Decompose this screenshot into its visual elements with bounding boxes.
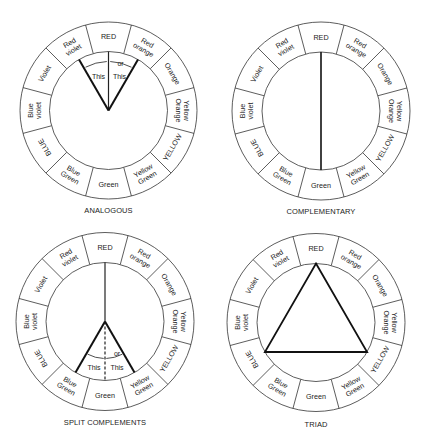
segment-label-violet: Violet (36, 64, 53, 84)
segment-label-yellow-orange: YellowOrange (387, 99, 404, 123)
segment-divider (23, 126, 51, 134)
segment-label-yellow-orange: YellowOrange (382, 311, 399, 335)
annotation-this-left: This (87, 364, 101, 371)
annotation-this-right: This (113, 73, 127, 80)
segment-divider (230, 338, 259, 346)
wheel-caption: ANALOGOUS (84, 206, 132, 215)
segment-label-violet: Violet (244, 276, 261, 296)
segment-divider (293, 237, 301, 266)
segment-divider (336, 168, 344, 197)
segment-label-red: RED (101, 32, 116, 41)
segment-label-violet: Violet (249, 64, 266, 84)
segment-label-yellow-green: YellowGreen (129, 372, 156, 397)
segment-divider (162, 298, 191, 306)
segment-label-green: Green (306, 392, 326, 401)
segment-label-red: RED (308, 244, 323, 253)
segment-divider (19, 298, 48, 306)
segment-label-yellow-green: YellowGreen (345, 162, 372, 187)
segment-divider (82, 236, 90, 265)
segment-label-red-violet: Redviolet (60, 35, 83, 58)
segment-divider (165, 126, 193, 134)
annotation-or: or (114, 350, 121, 357)
segment-divider (120, 378, 128, 407)
segment-label-red-violet: Redviolet (56, 246, 79, 269)
analogous-color-wheel: REDRedorangeOrangeYellowOrangeYELLOWYell… (20, 22, 197, 215)
segment-divider (298, 168, 306, 197)
segment-divider (86, 25, 94, 53)
segment-label-orange: Orange (375, 61, 395, 86)
segment-label-yellow: YELLOW (369, 344, 392, 375)
annotation-this-right: This (110, 364, 124, 371)
segment-label-blue-green: BlueGreen (55, 373, 81, 398)
segment-divider (235, 88, 264, 96)
segment-divider (378, 88, 407, 96)
segment-divider (373, 338, 402, 346)
segment-label-yellow-green: YellowGreen (340, 373, 367, 398)
segment-divider (373, 299, 402, 307)
wheel-caption: COMPLEMENTARY (287, 207, 356, 216)
annotation-this-left: This (92, 73, 106, 80)
inner-circle (257, 264, 375, 382)
segment-label-blue: BLUE (243, 349, 260, 370)
segment-label-orange: Orange (162, 61, 182, 86)
segment-label-red-orange: Redorange (128, 244, 156, 270)
segment-divider (293, 379, 301, 408)
segment-divider (86, 167, 94, 195)
segment-label-blue: BLUE (248, 137, 265, 158)
segment-divider (331, 379, 339, 408)
segment-label-blue-violet: Blueviolet (238, 103, 255, 120)
segment-divider (23, 88, 51, 96)
segment-divider (165, 88, 193, 96)
segment-label-yellow: YELLOW (374, 133, 397, 164)
segment-divider (235, 126, 264, 134)
segment-label-yellow: YELLOW (161, 132, 184, 163)
segment-label-red-violet: Redviolet (267, 247, 290, 270)
segment-label-blue-green: BlueGreen (266, 374, 292, 399)
segment-label-yellow-orange: YellowOrange (171, 310, 188, 334)
split-complements-color-wheel: REDRedorangeOrangeYellowOrangeYELLOWYell… (16, 233, 194, 428)
segment-divider (162, 337, 191, 345)
segment-divider (19, 337, 48, 345)
segment-divider (378, 126, 407, 134)
segment-label-violet: Violet (33, 275, 50, 295)
segment-label-orange: Orange (370, 273, 390, 298)
complementary-color-wheel: REDRedorangeOrangeYellowOrangeYELLOWYell… (232, 22, 410, 216)
segment-divider (124, 167, 132, 195)
triad-color-wheel: REDRedorangeOrangeYellowOrangeYELLOWYell… (227, 234, 405, 430)
segment-label-red-orange: Redorange (132, 33, 160, 59)
segment-label-red-violet: Redviolet (272, 35, 295, 58)
segment-label-blue: BLUE (32, 348, 49, 369)
annotation-or: or (117, 60, 124, 67)
segment-divider (336, 25, 344, 54)
segment-label-orange: Orange (159, 272, 179, 297)
segment-label-yellow-orange: YellowOrange (174, 99, 191, 123)
segment-label-red: RED (313, 33, 328, 42)
segment-divider (331, 237, 339, 266)
color-harmony-diagrams: REDRedorangeOrangeYellowOrangeYELLOWYell… (0, 0, 425, 445)
segment-divider (298, 25, 306, 54)
segment-label-green: Green (99, 180, 119, 189)
segment-label-blue-green: BlueGreen (59, 162, 85, 187)
segment-label-blue-green: BlueGreen (271, 162, 297, 187)
segment-divider (230, 299, 259, 307)
segment-label-blue: BLUE (36, 137, 53, 158)
segment-label-blue-violet: Blueviolet (233, 314, 250, 331)
segment-label-blue-violet: Blueviolet (26, 102, 43, 119)
segment-label-yellow: YELLOW (158, 343, 181, 374)
segment-divider (82, 378, 90, 407)
segment-label-blue-violet: Blueviolet (22, 313, 39, 330)
segment-label-red: RED (97, 243, 112, 252)
segment-label-green: Green (311, 181, 331, 190)
segment-label-red-orange: Redorange (339, 245, 367, 271)
segment-label-green: Green (95, 391, 115, 400)
segment-divider (120, 236, 128, 265)
wheel-caption: TRIAD (305, 420, 328, 429)
segment-label-yellow-green: YellowGreen (132, 161, 159, 186)
segment-label-red-orange: Redorange (344, 34, 372, 60)
segment-divider (124, 25, 132, 53)
wheel-caption: SPLIT COMPLEMENTS (64, 418, 146, 427)
